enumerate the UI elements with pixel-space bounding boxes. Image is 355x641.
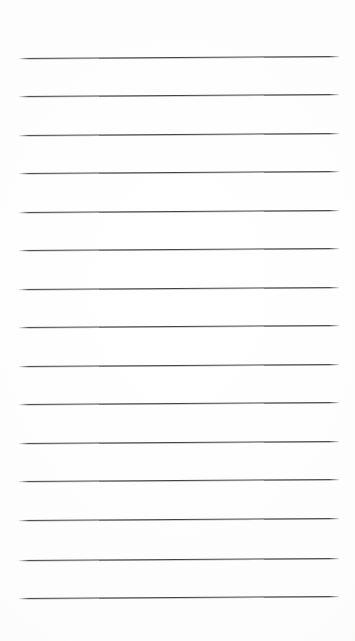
notepad-page bbox=[0, 0, 355, 641]
writing-area[interactable] bbox=[19, 40, 339, 620]
